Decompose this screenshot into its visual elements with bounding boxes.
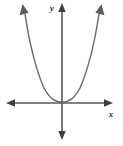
- x-axis-right-arrow-icon: [104, 99, 113, 107]
- parabola-left-arrow-icon: [20, 4, 29, 15]
- y-axis-down-arrow-icon: [58, 131, 65, 140]
- y-axis-label: y: [49, 3, 55, 13]
- graph-canvas: y x: [0, 0, 123, 146]
- parabola-right-arrow-icon: [95, 4, 104, 15]
- y-axis-up-arrow-icon: [58, 3, 65, 12]
- x-axis-left-arrow-icon: [6, 99, 15, 107]
- x-axis-label: x: [108, 109, 114, 119]
- parabola-graph-figure: y x: [0, 0, 123, 146]
